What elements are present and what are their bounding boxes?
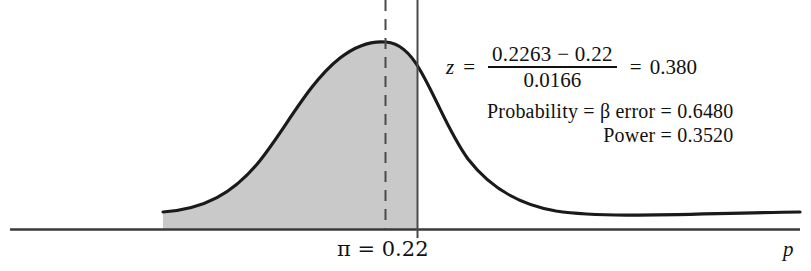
pi-label-text: π = 0.22 xyxy=(337,237,429,261)
z-variable: z xyxy=(446,57,463,78)
z-fraction: 0.2263 − 0.22 0.0166 xyxy=(488,44,617,91)
z-result-value: 0.380 xyxy=(650,57,697,78)
z-result-equals-sign: = xyxy=(621,57,650,78)
z-equation: z = 0.2263 − 0.22 0.0166 = 0.380 xyxy=(446,44,697,91)
z-numerator: 0.2263 − 0.22 xyxy=(488,44,617,66)
probability-beta-error-line: Probability = β error = 0.6480 xyxy=(487,101,733,121)
power-line: Power = 0.3520 xyxy=(487,125,733,145)
z-equals-sign: = xyxy=(463,57,484,78)
beta-error-shaded-region xyxy=(163,42,417,229)
pi-axis-label: π = 0.22 xyxy=(337,239,429,260)
statistics-block: Probability = β error = 0.6480 Power = 0… xyxy=(487,101,733,145)
z-denominator: 0.0166 xyxy=(520,68,586,91)
x-axis-label: p xyxy=(783,239,794,260)
distribution-figure: z = 0.2263 − 0.22 0.0166 = 0.380 Probabi… xyxy=(0,0,811,271)
